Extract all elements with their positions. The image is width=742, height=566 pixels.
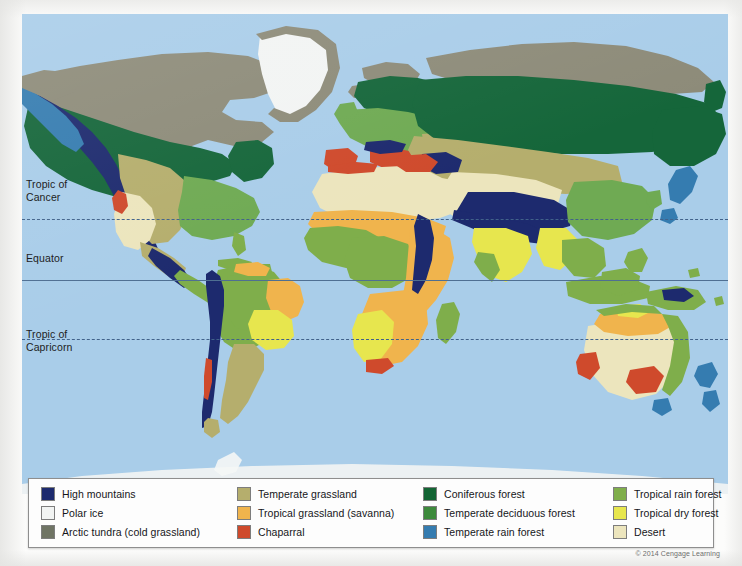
landmass-patagonia-tip: [204, 418, 220, 438]
legend-swatch-desert: [613, 525, 627, 539]
map-ocean: [22, 14, 728, 494]
landmass-tasmania: [652, 398, 672, 416]
legend-label-temperate-rain-forest: Temperate rain forest: [444, 526, 544, 538]
legend-label-chaparral: Chaparral: [258, 526, 305, 538]
legend-item-polar-ice[interactable]: Polar ice: [41, 506, 237, 520]
legend-label-high-mountains: High mountains: [62, 488, 136, 500]
landmass-cape-chaparral: [366, 358, 394, 374]
legend-label-polar-ice: Polar ice: [62, 507, 103, 519]
legend-label-arctic-tundra: Arctic tundra (cold grassland): [62, 526, 200, 538]
legend-item-temperate-rain-forest[interactable]: Temperate rain forest: [423, 525, 613, 539]
latline-tropic-of-cancer: [22, 219, 728, 220]
latlabel-tropic-of-cancer: Tropic of Cancer: [26, 178, 67, 203]
latlabel-tropic-of-capricorn: Tropic of Capricorn: [26, 328, 72, 353]
landmass-florida: [232, 232, 246, 256]
copyright-notice: © 2014 Cengage Learning: [635, 550, 720, 557]
latline-tropic-of-capricorn: [22, 339, 728, 340]
legend-label-temperate-grassland: Temperate grassland: [258, 488, 357, 500]
legend-swatch-temperate-deciduous-forest: [423, 506, 437, 520]
landmass-new-zealand: [694, 362, 720, 412]
legend-item-high-mountains[interactable]: High mountains: [41, 487, 237, 501]
legend-swatch-tropical-dry-forest: [613, 506, 627, 520]
world-landmasses: [22, 14, 728, 494]
legend-item-tropical-dry-forest[interactable]: Tropical dry forest: [613, 506, 722, 520]
latlabel-equator: Equator: [26, 252, 63, 265]
legend-item-tropical-grassland[interactable]: Tropical grassland (savanna): [237, 506, 423, 520]
legend-item-tropical-rain-forest[interactable]: Tropical rain forest: [613, 487, 722, 501]
landmass-madagascar: [436, 302, 460, 344]
legend-item-desert[interactable]: Desert: [613, 525, 722, 539]
legend-item-temperate-grassland[interactable]: Temperate grassland: [237, 487, 423, 501]
legend-item-temperate-deciduous-forest[interactable]: Temperate deciduous forest: [423, 506, 613, 520]
legend-swatch-tropical-grassland: [237, 506, 251, 520]
landmass-eastern-deciduous-forest: [178, 176, 260, 240]
legend-swatch-tropical-rain-forest: [613, 487, 627, 501]
legend-label-coniferous-forest: Coniferous forest: [444, 488, 525, 500]
legend-grid: High mountains Temperate grassland Conif…: [29, 479, 713, 547]
legend-item-coniferous-forest[interactable]: Coniferous forest: [423, 487, 613, 501]
page-canvas: Tropic of Cancer Equator Tropic of Capri…: [0, 0, 742, 566]
legend-swatch-polar-ice: [41, 506, 55, 520]
landmass-east-asia-coniferous: [652, 106, 726, 166]
landmass-indochina-rainforest: [562, 238, 606, 278]
latline-equator: [22, 280, 728, 281]
legend-label-tropical-rain-forest: Tropical rain forest: [634, 488, 722, 500]
legend-label-temperate-deciduous-forest: Temperate deciduous forest: [444, 507, 575, 519]
map-legend: High mountains Temperate grassland Conif…: [28, 478, 714, 548]
legend-item-arctic-tundra[interactable]: Arctic tundra (cold grassland): [41, 525, 237, 539]
legend-swatch-temperate-grassland: [237, 487, 251, 501]
legend-label-tropical-dry-forest: Tropical dry forest: [634, 507, 719, 519]
legend-label-tropical-grassland: Tropical grassland (savanna): [258, 507, 394, 519]
landmass-china-deciduous: [566, 180, 656, 240]
landmass-labrador-coniferous: [228, 140, 274, 182]
legend-swatch-arctic-tundra: [41, 525, 55, 539]
legend-swatch-chaparral: [237, 525, 251, 539]
legend-swatch-high-mountains: [41, 487, 55, 501]
landmass-japan: [660, 166, 698, 224]
landmass-philippines: [624, 248, 648, 272]
legend-swatch-temperate-rain-forest: [423, 525, 437, 539]
legend-swatch-coniferous-forest: [423, 487, 437, 501]
legend-label-desert: Desert: [634, 526, 665, 538]
legend-item-chaparral[interactable]: Chaparral: [237, 525, 423, 539]
landmass-pampas-grassland: [220, 344, 264, 424]
